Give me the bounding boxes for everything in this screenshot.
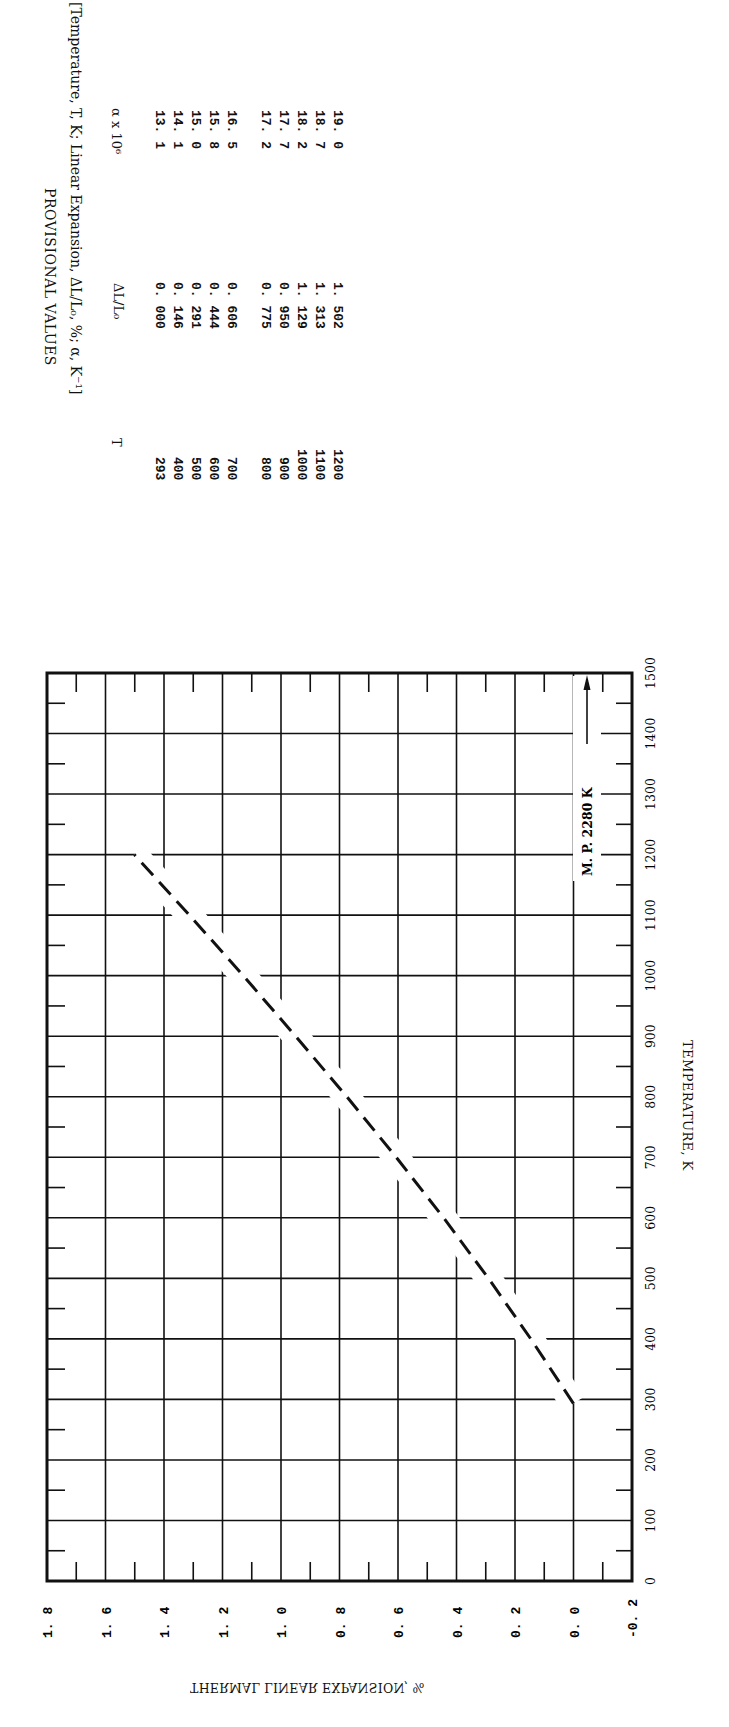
- x-axis-title: TEMPERATURE, K: [680, 1040, 695, 1171]
- y-tick-label: 0. 0: [568, 1607, 583, 1638]
- x-tick-label: 1300: [643, 778, 658, 810]
- x-tick-label: 0: [643, 1577, 658, 1585]
- x-tick-label: 300: [643, 1387, 658, 1411]
- mp-annotation-label: M. P. 2280 K: [580, 786, 595, 876]
- y-tick-label: 0. 8: [334, 1607, 349, 1638]
- x-tick-label: 100: [643, 1508, 658, 1532]
- y-tick-label: 1. 2: [217, 1607, 232, 1638]
- y-axis-title: THERMAL LINEAR EXPANSION, %: [190, 1680, 425, 1695]
- thermal-expansion-chart: M. P. 2280 K0100200300400500600700800900…: [0, 0, 729, 1727]
- x-tick-label: 500: [643, 1266, 658, 1290]
- x-tick-label: 1500: [643, 657, 658, 689]
- x-tick-label: 400: [643, 1327, 658, 1351]
- y-tick-label: 1. 6: [100, 1607, 115, 1638]
- y-tick-label: 1. 0: [275, 1607, 290, 1638]
- y-tick-label: 0. 2: [509, 1607, 524, 1638]
- y-tick-label: 0. 6: [392, 1607, 407, 1638]
- y-tick-label: 1. 8: [41, 1607, 56, 1638]
- x-tick-label: 1000: [643, 960, 658, 992]
- x-tick-label: 1100: [643, 899, 658, 931]
- x-tick-label: 800: [643, 1085, 658, 1109]
- y-tick-label: 1. 4: [158, 1607, 173, 1638]
- x-tick-label: 1200: [643, 839, 658, 871]
- x-tick-label: 200: [643, 1448, 658, 1472]
- x-tick-label: 600: [643, 1206, 658, 1230]
- x-tick-label: 700: [643, 1145, 658, 1169]
- curve-halo: [134, 855, 573, 1404]
- x-tick-label: 1400: [643, 718, 658, 750]
- y-tick-label: -0. 2: [626, 1599, 641, 1638]
- x-tick-label: 900: [643, 1024, 658, 1048]
- y-tick-label: 0. 4: [451, 1607, 466, 1638]
